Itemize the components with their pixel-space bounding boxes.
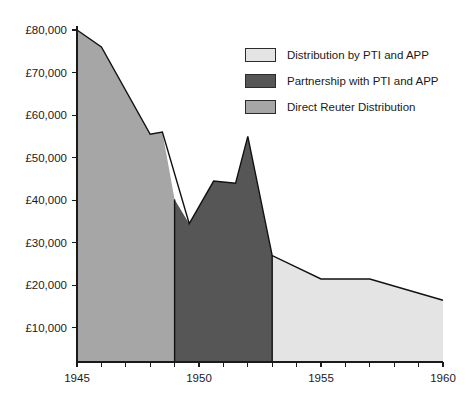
legend-item: Partnership with PTI and APP xyxy=(245,70,460,92)
y-tick-label: £60,000 xyxy=(25,109,67,121)
x-tick-label: 1960 xyxy=(430,372,456,384)
legend-swatch-distribution-by-pti-and-app xyxy=(245,48,276,62)
legend-label: Distribution by PTI and APP xyxy=(287,49,429,61)
legend-item: Direct Reuter Distribution xyxy=(245,96,460,118)
legend-label: Partnership with PTI and APP xyxy=(287,75,439,87)
area-band xyxy=(175,136,273,362)
legend-label: Direct Reuter Distribution xyxy=(287,101,415,113)
y-axis-ticks: £10,000£20,000£30,000£40,000£50,000£60,0… xyxy=(25,24,77,334)
y-tick-label: £50,000 xyxy=(25,152,67,164)
area-band xyxy=(272,256,443,362)
y-tick-label: £30,000 xyxy=(25,237,67,249)
y-tick-label: £20,000 xyxy=(25,279,67,291)
x-tick-label: 1950 xyxy=(186,372,212,384)
area-chart: £10,000£20,000£30,000£40,000£50,000£60,0… xyxy=(0,0,466,403)
y-tick-label: £80,000 xyxy=(25,24,67,36)
legend-swatch-partnership-with-pti-and-app xyxy=(245,74,276,88)
legend-item: Distribution by PTI and APP xyxy=(245,44,460,66)
y-tick-label: £40,000 xyxy=(25,194,67,206)
x-tick-label: 1955 xyxy=(308,372,334,384)
y-tick-label: £70,000 xyxy=(25,67,67,79)
area-band xyxy=(77,30,175,362)
x-tick-label: 1945 xyxy=(64,372,90,384)
x-axis-ticks: 1945195019551960 xyxy=(64,362,456,384)
y-tick-label: £10,000 xyxy=(25,322,67,334)
legend-swatch-direct-reuter-distribution xyxy=(245,100,276,114)
chart-legend: Distribution by PTI and APP Partnership … xyxy=(245,44,460,122)
